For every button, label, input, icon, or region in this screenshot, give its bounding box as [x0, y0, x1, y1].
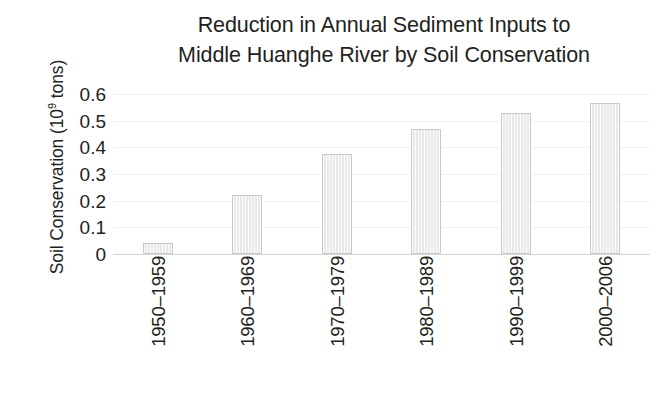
- x-axis-tick-labels: 1950–19591960–19691970–19791980–19891990…: [113, 256, 650, 386]
- plot-area: [113, 94, 650, 254]
- bar[interactable]: [143, 243, 173, 254]
- x-tick-label: 1990–1999: [506, 256, 525, 347]
- x-axis-line: [113, 254, 650, 255]
- x-tick-label: 2000–2006: [596, 256, 615, 347]
- y-tick-label: 0: [60, 245, 106, 264]
- x-tick-slot: 1960–1969: [203, 256, 293, 386]
- x-tick-slot: 1970–1979: [292, 256, 382, 386]
- x-tick-slot: 1980–1989: [382, 256, 472, 386]
- x-tick-slot: 1990–1999: [471, 256, 561, 386]
- x-tick-label: 1960–1969: [238, 256, 257, 347]
- bar[interactable]: [322, 154, 352, 254]
- bar-series: [113, 94, 650, 254]
- bar[interactable]: [411, 129, 441, 254]
- x-tick-label: 1970–1979: [327, 256, 346, 347]
- y-tick-label: 0.6: [60, 85, 106, 104]
- y-tick-label: 0.4: [60, 138, 106, 157]
- x-tick-label: 1980–1989: [417, 256, 436, 347]
- y-tick-label: 0.1: [60, 218, 106, 237]
- x-tick-slot: 2000–2006: [561, 256, 651, 386]
- bar[interactable]: [501, 113, 531, 254]
- y-axis-tick-labels: 0.60.50.40.30.20.10: [56, 94, 106, 254]
- chart-title: Reduction in Annual Sediment Inputs to M…: [110, 10, 658, 70]
- x-tick-slot: 1950–1959: [113, 256, 203, 386]
- chart-figure: Reduction in Annual Sediment Inputs to M…: [0, 0, 664, 406]
- bar[interactable]: [232, 195, 262, 254]
- y-tick-label: 0.2: [60, 191, 106, 210]
- bar[interactable]: [590, 103, 620, 254]
- x-tick-label: 1950–1959: [148, 256, 167, 347]
- y-tick-label: 0.5: [60, 111, 106, 130]
- y-tick-label: 0.3: [60, 165, 106, 184]
